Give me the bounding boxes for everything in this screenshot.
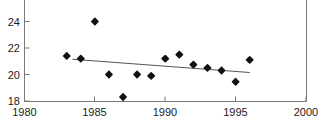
y-tick-label-24: 24 xyxy=(8,16,20,28)
y-tick-label-22: 22 xyxy=(8,42,20,54)
x-tick-label-2000: 2000 xyxy=(294,106,318,118)
x-tick-label-1980: 1980 xyxy=(12,106,36,118)
x-tick-label-1985: 1985 xyxy=(82,106,106,118)
x-tick-label-1995: 1995 xyxy=(223,106,247,118)
scatter-plot: 24 22 20 18 1980 1985 1990 1995 2000 xyxy=(0,0,327,121)
y-tick-label-20: 20 xyxy=(8,69,20,81)
x-tick-label-1990: 1990 xyxy=(153,106,177,118)
chart-screenshot: 24 22 20 18 1980 1985 1990 1995 2000 xyxy=(0,0,327,121)
